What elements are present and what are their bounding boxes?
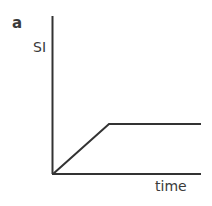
si-curve xyxy=(53,124,201,174)
plot-area xyxy=(0,0,212,206)
